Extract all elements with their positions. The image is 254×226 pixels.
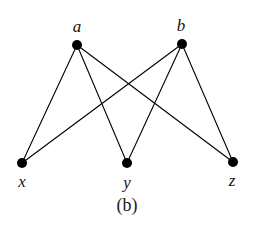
figure-container: abxyz (b) bbox=[0, 0, 254, 226]
graph-edge-b-z bbox=[182, 44, 233, 162]
graph-node-z bbox=[228, 157, 238, 167]
vertex-label-a: a bbox=[73, 18, 82, 35]
graph-node-a bbox=[72, 40, 82, 50]
graph-node-y bbox=[122, 158, 132, 168]
bipartite-graph-svg bbox=[0, 0, 254, 226]
edge-layer bbox=[22, 44, 233, 163]
vertex-label-x: x bbox=[18, 173, 26, 190]
graph-node-b bbox=[177, 39, 187, 49]
figure-caption: (b) bbox=[117, 195, 138, 216]
vertex-label-y: y bbox=[123, 174, 131, 191]
graph-edge-b-y bbox=[127, 44, 182, 163]
vertex-label-z: z bbox=[229, 172, 236, 189]
graph-node-x bbox=[17, 158, 27, 168]
vertex-label-b: b bbox=[177, 17, 186, 34]
graph-edge-b-x bbox=[22, 44, 182, 163]
graph-edge-a-x bbox=[22, 45, 77, 163]
